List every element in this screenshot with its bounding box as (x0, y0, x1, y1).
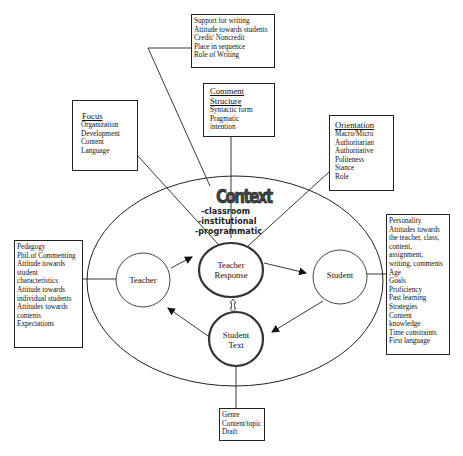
arrow-student-to-text (272, 301, 323, 332)
list-item: assignment, (389, 251, 447, 260)
list-item: Content/topic (222, 420, 262, 429)
list-item: intention (210, 123, 272, 132)
comment-structure-box: Comment Structure Syntactic form Pragmat… (203, 83, 275, 137)
box-title: Structure (210, 96, 272, 106)
context-item-programmatic: -programmatic (195, 227, 262, 237)
context-item-classroom: -classroom (201, 207, 250, 217)
list-item: Content (389, 312, 447, 321)
list-item: Politeness (335, 156, 391, 165)
student-text-attributes-box: Genre Content/topic Draft (219, 408, 265, 441)
node-label-teacher: Teacher (129, 275, 156, 285)
teacher-characteristics-box: Pedagogy Phil.of Commenting Attitude tow… (14, 240, 83, 348)
list-item: characteristics (17, 277, 80, 286)
arrow-teacher-to-response (171, 257, 192, 268)
list-item: Proficiency (389, 286, 447, 295)
list-item: Attitude towards (17, 286, 80, 295)
list-item: writing, comments (389, 260, 447, 269)
list-item: Attitude towards (17, 260, 80, 269)
node-label-student: Student (327, 270, 353, 280)
list-item: Strategies (389, 303, 447, 312)
context-title: Context (216, 184, 272, 208)
list-item: Place in sequence (194, 43, 272, 52)
box-title: Comment (210, 86, 272, 96)
node-label-line: Text (223, 340, 249, 350)
top-factors-box: Support for writing Attitude towards stu… (191, 14, 275, 68)
box-title: Orientation (335, 120, 391, 130)
list-item: Stance (335, 164, 391, 173)
connector-top-box (148, 48, 210, 186)
double-arrow-response-text (230, 299, 236, 312)
focus-box: Focus Organization Development Content L… (72, 100, 138, 171)
list-item: Role (335, 173, 391, 182)
list-item: Age (389, 269, 447, 278)
list-item: Pragmatic (210, 115, 272, 124)
list-item: Macro/Micro (335, 130, 391, 139)
list-item: contents (17, 312, 80, 321)
list-item: the teacher, class, (389, 234, 447, 243)
list-item: Support for writing (194, 17, 272, 26)
list-item: knowledge (389, 320, 447, 329)
list-item: Language (81, 147, 135, 156)
list-item: Genre (222, 411, 262, 420)
list-item: Attitudes towards (17, 303, 80, 312)
list-item: Attitude towards students (194, 26, 272, 35)
node-label-line: Teacher (215, 260, 248, 270)
list-item: Draft (222, 428, 262, 437)
list-item: content, (389, 243, 447, 252)
list-item: Personality (389, 217, 447, 226)
list-item: Syntactic form (210, 106, 272, 115)
list-item: Content (81, 138, 135, 147)
list-item: Time constraints (389, 329, 447, 338)
arrow-text-to-teacher (168, 308, 208, 336)
list-item: Development (81, 130, 135, 139)
list-item: Expectations (17, 320, 80, 329)
list-item: Organization (81, 121, 135, 130)
list-item: Pedagogy (17, 243, 80, 252)
list-item: Goals (389, 277, 447, 286)
arrow-response-to-student (264, 263, 306, 273)
list-item: Authoritative (335, 147, 391, 156)
student-characteristics-box: Personality Attitudes towards the teache… (386, 214, 450, 355)
list-item: individual students (17, 295, 80, 304)
list-item: First language (389, 337, 447, 346)
box-title: Focus (82, 111, 135, 121)
list-item: Attitudes towards (389, 226, 447, 235)
list-item: Past learning (389, 294, 447, 303)
list-item: student (17, 269, 80, 278)
node-label-line: Response (215, 270, 248, 280)
list-item: Phil.of Commenting (17, 252, 80, 261)
node-label-teacher-response: Teacher Response (215, 260, 248, 280)
list-item: Authoritarian (335, 139, 391, 148)
context-item-institutional: -institutional (198, 217, 257, 227)
node-label-line: Student (223, 330, 249, 340)
list-item: Role of Writing (194, 51, 272, 60)
list-item: Credit/ Noncredit (194, 34, 272, 43)
orientation-box: Orientation Macro/Micro Authoritarian Au… (329, 115, 394, 191)
node-label-student-text: Student Text (223, 330, 249, 350)
